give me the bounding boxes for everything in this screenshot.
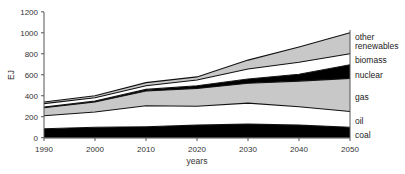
label-other-renewables-2: renewables	[355, 41, 398, 51]
ytick-label-1200: 1200	[20, 8, 38, 17]
label-coal: coal	[355, 130, 371, 140]
xtick-label-2010: 2010	[137, 145, 155, 154]
x-axis-title: years	[187, 156, 208, 166]
xtick-label-1990: 1990	[35, 145, 53, 154]
label-nuclear: nuclear	[355, 70, 383, 80]
xtick-label-2040: 2040	[290, 145, 308, 154]
ytick-label-400: 400	[25, 92, 39, 101]
stacked-area-chart: 0 200 400 600 800 1000 1200 1990 2000 20…	[0, 0, 405, 174]
ytick-label-200: 200	[25, 113, 39, 122]
ytick-label-800: 800	[25, 50, 39, 59]
xtick-label-2020: 2020	[188, 145, 206, 154]
label-gas: gas	[355, 92, 369, 102]
xtick-label-2030: 2030	[239, 145, 257, 154]
xtick-label-2050: 2050	[341, 145, 359, 154]
y-axis-title: EJ	[6, 70, 16, 80]
ytick-label-0: 0	[34, 134, 39, 143]
label-biomass: biomass	[355, 55, 387, 65]
xtick-label-2000: 2000	[86, 145, 104, 154]
ytick-label-1000: 1000	[20, 29, 38, 38]
ytick-label-600: 600	[25, 71, 39, 80]
label-oil: oil	[355, 116, 364, 126]
